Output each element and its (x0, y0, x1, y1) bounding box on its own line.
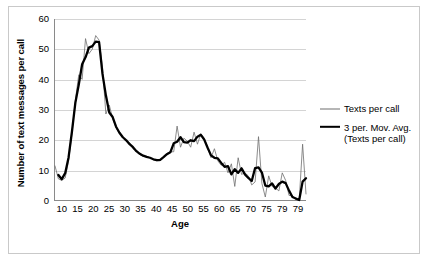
y-axis-tick-label: 30 (38, 105, 49, 115)
y-axis-tick-labels: 0102030405060 (29, 19, 51, 201)
y-axis-tick-label: 0 (44, 196, 49, 206)
y-axis-tick-label: 40 (38, 75, 49, 85)
x-axis-tick-label: 79 (293, 204, 304, 214)
x-axis-tick-label: 75 (261, 204, 272, 214)
x-axis-tick-label: 30 (120, 204, 131, 214)
series-line (55, 36, 306, 200)
x-axis-tick-label: 70 (246, 204, 257, 214)
legend-line-swatch-thin (320, 103, 340, 114)
x-axis-tick-label: 40 (151, 204, 162, 214)
y-axis-tick-label: 60 (38, 14, 49, 24)
x-axis-tick-label: 25 (104, 204, 115, 214)
x-axis-tick-label: 50 (183, 204, 194, 214)
x-axis-tick-label: 20 (88, 204, 99, 214)
y-axis-tick-label: 50 (38, 45, 49, 55)
legend-line-swatch-thick (320, 122, 340, 133)
x-axis-tick-label: 79 (277, 204, 288, 214)
legend-label: 3 per. Mov. Avg. (Texts per call) (344, 122, 411, 145)
y-axis-tick-label: 10 (38, 166, 49, 176)
x-axis-tick-label: 55 (198, 204, 209, 214)
x-axis-tick-label: 35 (135, 204, 146, 214)
plot-area (54, 19, 306, 201)
x-axis-tick-labels: 10152025303540455055606570757979 (54, 204, 306, 217)
y-axis-tick-label: 20 (38, 136, 49, 146)
x-axis-tick-label: 65 (230, 204, 241, 214)
x-axis-tick-label: 60 (214, 204, 225, 214)
chart-frame: Number of text messages per call 0102030… (8, 6, 420, 254)
legend-label: Texts per call (344, 103, 399, 115)
x-axis-tick-label: 15 (72, 204, 83, 214)
y-axis-title-text: Number of text messages per call (16, 39, 26, 187)
x-axis-tick-label: 10 (57, 204, 68, 214)
legend-item-moving-average: 3 per. Mov. Avg. (Texts per call) (320, 122, 434, 145)
x-axis-title: Age (54, 218, 306, 229)
legend-item-texts-per-call: Texts per call (320, 103, 434, 115)
chart-legend: Texts per call 3 per. Mov. Avg. (Texts p… (320, 103, 434, 152)
x-axis-tick-label: 45 (167, 204, 178, 214)
series-lines (55, 19, 306, 200)
y-axis-title: Number of text messages per call (13, 21, 29, 206)
